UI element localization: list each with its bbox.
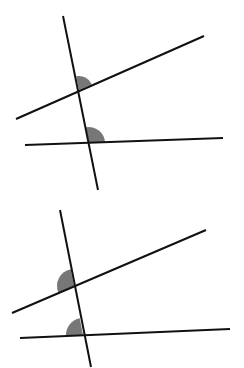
lower-line: [20, 329, 230, 338]
upper-line: [16, 36, 204, 119]
angle-lower-mark: [66, 318, 83, 335]
corresponding-angles-diagram: [0, 0, 244, 368]
lower-line: [25, 138, 223, 145]
transversal-line: [63, 16, 98, 190]
figure-top: [16, 16, 223, 190]
upper-line: [12, 230, 206, 313]
figure-bottom: [12, 210, 230, 367]
